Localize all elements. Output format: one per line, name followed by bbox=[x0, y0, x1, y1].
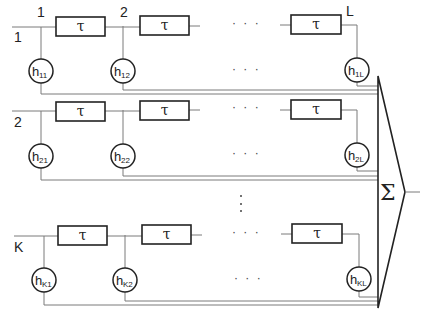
tap-label-L: L bbox=[346, 3, 354, 19]
row-2: τ τ τ 2 · · · · · · h 21 h 22 h 2L bbox=[12, 100, 378, 180]
svg-text:22: 22 bbox=[121, 156, 130, 165]
ellipsis-horizontal: · · · bbox=[232, 146, 261, 160]
delay-label: τ bbox=[79, 227, 87, 243]
delay-label: τ bbox=[161, 102, 169, 118]
delay-label: τ bbox=[77, 18, 85, 34]
tapped-delay-line-diagram: τ τ τ 1 2 L 1 · · · · · · h 11 h 12 bbox=[0, 0, 425, 317]
row-label-K: K bbox=[14, 239, 24, 255]
svg-text:11: 11 bbox=[39, 71, 48, 80]
row-K: τ τ τ K · · · · · · h K1 h K2 h KL bbox=[14, 224, 378, 305]
svg-text:1L: 1L bbox=[355, 70, 364, 79]
tap-label-2: 2 bbox=[120, 4, 128, 20]
svg-text:12: 12 bbox=[121, 71, 130, 80]
svg-text:KL: KL bbox=[357, 279, 367, 288]
ellipsis-horizontal: · · · bbox=[232, 16, 261, 30]
delay-label: τ bbox=[161, 17, 169, 33]
sigma-label: Σ bbox=[380, 180, 396, 205]
ellipsis-vertical bbox=[240, 195, 242, 212]
ellipsis-horizontal: · · · bbox=[232, 225, 261, 239]
coefficient-hKL: h KL bbox=[347, 267, 371, 291]
delay-label: τ bbox=[77, 103, 85, 119]
coefficient-h12: h 12 bbox=[111, 59, 135, 83]
row-label-2: 2 bbox=[14, 114, 22, 130]
delay-label: τ bbox=[313, 225, 321, 241]
coefficient-h22: h 22 bbox=[111, 144, 135, 168]
svg-text:21: 21 bbox=[39, 156, 48, 165]
coefficient-hK1: h K1 bbox=[32, 268, 56, 292]
svg-text:K2: K2 bbox=[123, 280, 133, 289]
coefficient-h21: h 21 bbox=[29, 144, 53, 168]
row-label-1: 1 bbox=[14, 29, 22, 45]
coefficient-hK2: h K2 bbox=[113, 268, 137, 292]
ellipsis-horizontal: · · · bbox=[234, 271, 263, 285]
tap-label-1: 1 bbox=[37, 4, 45, 20]
delay-label: τ bbox=[312, 101, 320, 117]
svg-text:2L: 2L bbox=[355, 155, 364, 164]
summation-block: Σ bbox=[378, 76, 420, 308]
coefficient-h1L: h 1L bbox=[345, 58, 369, 82]
coefficient-h11: h 11 bbox=[29, 59, 53, 83]
svg-text:K1: K1 bbox=[42, 280, 52, 289]
coefficient-h2L: h 2L bbox=[345, 143, 369, 167]
delay-label: τ bbox=[163, 226, 171, 242]
row-1: τ τ τ 1 2 L 1 · · · · · · h 11 h 12 bbox=[12, 3, 378, 94]
ellipsis-horizontal: · · · bbox=[232, 100, 261, 114]
delay-label: τ bbox=[312, 16, 320, 32]
ellipsis-horizontal: · · · bbox=[232, 62, 261, 76]
